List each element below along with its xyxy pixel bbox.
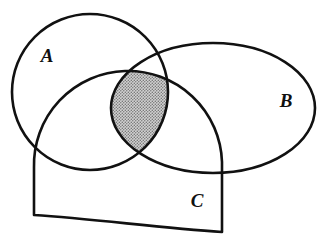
venn-diagram-canvas: A B C — [0, 0, 327, 244]
venn-diagram-figure: A B C — [0, 0, 327, 244]
set-c-label: C — [191, 190, 204, 211]
set-a-label: A — [40, 45, 54, 66]
diagram-background — [0, 0, 327, 244]
set-b-label: B — [279, 90, 293, 111]
